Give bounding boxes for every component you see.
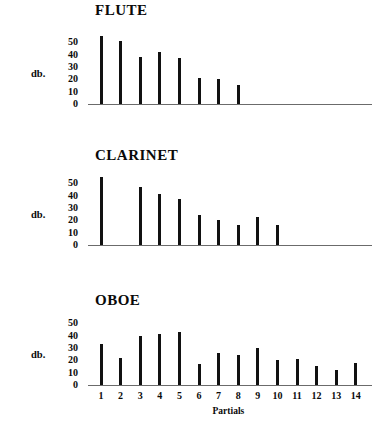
x-tick-label: 14 xyxy=(351,390,361,401)
chart-panel-oboe: OBOE50403020100db.1234567891011121314Par… xyxy=(0,0,387,435)
x-tick-label: 2 xyxy=(118,390,123,401)
x-tick-label: 5 xyxy=(177,390,182,401)
bar xyxy=(119,358,122,385)
bar xyxy=(178,332,181,385)
bar xyxy=(315,366,318,385)
bars-group xyxy=(0,317,387,385)
x-tick-label: 12 xyxy=(312,390,322,401)
x-axis-title: Partials xyxy=(213,406,245,416)
panel-title: OBOE xyxy=(95,292,140,309)
x-tick-label: 6 xyxy=(197,390,202,401)
x-tick-label: 3 xyxy=(138,390,143,401)
x-tick-label: 4 xyxy=(157,390,162,401)
bar xyxy=(139,336,142,385)
x-tick-label: 7 xyxy=(216,390,221,401)
bar xyxy=(276,360,279,385)
bar xyxy=(217,353,220,385)
spectra-figure: FLUTE50403020100db.CLARINET50403020100db… xyxy=(0,0,387,435)
x-tick-label: 13 xyxy=(331,390,341,401)
bar xyxy=(100,344,103,385)
x-tick-label: 10 xyxy=(272,390,282,401)
bar xyxy=(158,334,161,385)
bar xyxy=(256,348,259,385)
x-axis-line xyxy=(88,385,372,386)
bar xyxy=(296,359,299,385)
x-tick-label: 9 xyxy=(255,390,260,401)
bar xyxy=(335,370,338,385)
bar xyxy=(354,363,357,385)
x-tick-label: 8 xyxy=(236,390,241,401)
x-tick-label: 11 xyxy=(292,390,301,401)
x-tick-label: 1 xyxy=(99,390,104,401)
bar xyxy=(198,364,201,385)
bar xyxy=(237,355,240,385)
